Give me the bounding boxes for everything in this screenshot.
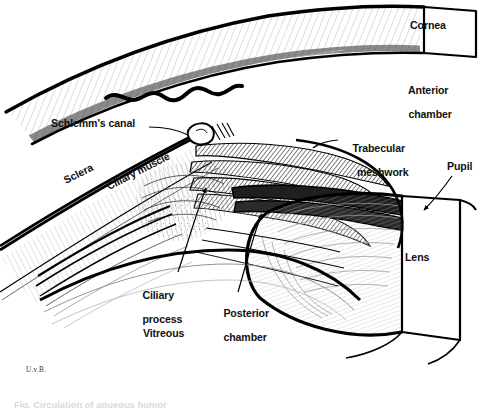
artist-signature: U.v.B. xyxy=(26,366,46,374)
label-posterior-chamber-line2: chamber xyxy=(223,331,266,343)
label-trabecular-meshwork-line1: Trabecular xyxy=(352,142,405,154)
anatomy-figure: Schlemm's canal Sclera Ciliary muscle Co… xyxy=(0,0,488,408)
label-cornea: Cornea xyxy=(410,20,446,32)
figure-caption: Fig. Circulation of aqueous humor xyxy=(14,399,167,408)
label-ciliary-process-line1: Ciliary xyxy=(142,289,174,301)
label-pupil: Pupil xyxy=(447,161,472,173)
label-trabecular-meshwork: Trabecular meshwork xyxy=(341,131,409,202)
schlemms-canal-lumen xyxy=(188,123,214,144)
label-vitreous: Vitreous xyxy=(143,328,184,340)
label-trabecular-meshwork-line2: meshwork xyxy=(341,167,409,179)
label-posterior-chamber-line1: Posterior xyxy=(223,307,269,319)
label-posterior-chamber: Posterior chamber xyxy=(212,296,269,355)
label-lens: Lens xyxy=(405,252,429,264)
label-anterior-chamber-line1: Anterior xyxy=(408,84,448,96)
label-schlemms-canal: Schlemm's canal xyxy=(51,118,135,130)
label-anterior-chamber: Anterior chamber xyxy=(397,73,452,132)
label-anterior-chamber-line2: chamber xyxy=(408,108,451,120)
label-ciliary-process-line2: process xyxy=(142,313,182,325)
